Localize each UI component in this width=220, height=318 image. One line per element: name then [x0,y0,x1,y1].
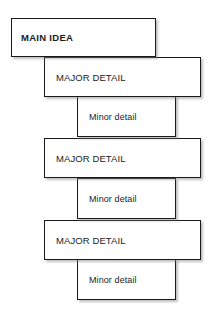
node-minor-detail-2[interactable]: Minor detail [77,178,176,219]
node-label: MAJOR DETAIL [45,72,126,83]
node-label: Minor detail [78,112,137,122]
node-label: MAJOR DETAIL [45,153,126,164]
node-minor-detail-3[interactable]: Minor detail [77,259,176,300]
node-label: MAIN IDEA [12,32,73,43]
node-label: Minor detail [78,275,137,285]
node-minor-detail-1[interactable]: Minor detail [77,96,176,137]
node-major-detail-3[interactable]: MAJOR DETAIL [44,220,201,260]
node-label: Minor detail [78,194,137,204]
node-major-detail-2[interactable]: MAJOR DETAIL [44,138,201,178]
node-major-detail-1[interactable]: MAJOR DETAIL [44,57,201,97]
node-main-idea[interactable]: MAIN IDEA [11,18,156,57]
node-label: MAJOR DETAIL [45,235,126,246]
outline-cascade-diagram: MAIN IDEA MAJOR DETAIL Minor detail MAJO… [0,0,220,318]
